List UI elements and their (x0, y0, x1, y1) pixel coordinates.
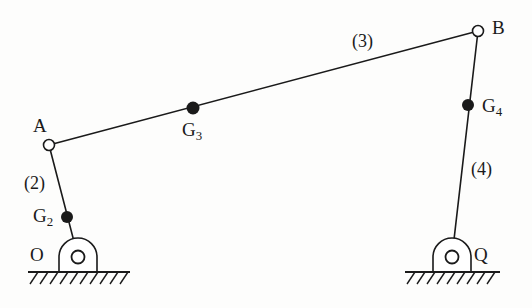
link-4-rocker-bar (452, 31, 478, 257)
ground-hatching-right (407, 272, 495, 284)
label-mass-center-G4-subscript: 4 (496, 104, 502, 119)
joint-B-pin (473, 26, 484, 37)
label-mass-center-G2-subscript: 2 (47, 214, 53, 229)
mass-center-G2-dot (61, 211, 73, 223)
mass-center-G3-dot (187, 102, 200, 115)
label-link-2: (2) (24, 174, 45, 192)
label-mass-center-G4-base: G (482, 95, 496, 116)
label-joint-A: A (33, 116, 47, 135)
label-joint-B: B (492, 18, 505, 37)
label-link-3: (3) (352, 32, 373, 50)
label-mass-center-G3: G3 (182, 120, 202, 143)
label-joint-O: O (30, 245, 44, 264)
label-mass-center-G2-base: G (33, 205, 47, 226)
label-mass-center-G2: G2 (33, 206, 53, 229)
label-mass-center-G3-base: G (182, 119, 196, 140)
label-link-4: (4) (471, 160, 492, 178)
joint-Q-ground-pivot (446, 251, 459, 264)
joint-A-pin (44, 140, 55, 151)
diagram-canvas (0, 0, 532, 308)
linkage-diagram: O A B Q G2 G3 G4 (2) (3) (4) (0, 0, 532, 308)
label-mass-center-G3-subscript: 3 (196, 128, 202, 143)
joint-O-ground-pivot (72, 251, 85, 264)
link-3-coupler-bar (49, 31, 478, 145)
label-joint-Q: Q (474, 245, 488, 264)
label-mass-center-G4: G4 (482, 96, 502, 119)
ground-hatching-left (30, 272, 128, 284)
mass-center-G4-dot (462, 99, 474, 111)
